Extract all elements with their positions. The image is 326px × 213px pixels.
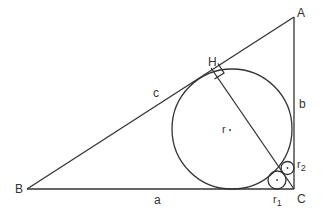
label-radius-r1: r1 bbox=[273, 193, 282, 208]
center-r2 bbox=[287, 167, 289, 169]
label-side-c: c bbox=[153, 86, 159, 100]
label-c-vertex: C bbox=[297, 192, 306, 206]
label-b-vertex: B bbox=[15, 182, 23, 196]
label-radius-r: r bbox=[222, 123, 226, 135]
geometry-diagram: A B C H a b c r r1 r2 bbox=[0, 0, 326, 213]
label-a-vertex: A bbox=[297, 6, 305, 20]
side-c bbox=[27, 17, 294, 189]
label-side-b: b bbox=[299, 97, 306, 111]
center-r bbox=[229, 129, 231, 131]
center-r1 bbox=[276, 179, 278, 181]
label-h-point: H bbox=[208, 55, 217, 69]
label-side-a: a bbox=[154, 193, 161, 207]
label-radius-r2: r2 bbox=[297, 158, 306, 173]
